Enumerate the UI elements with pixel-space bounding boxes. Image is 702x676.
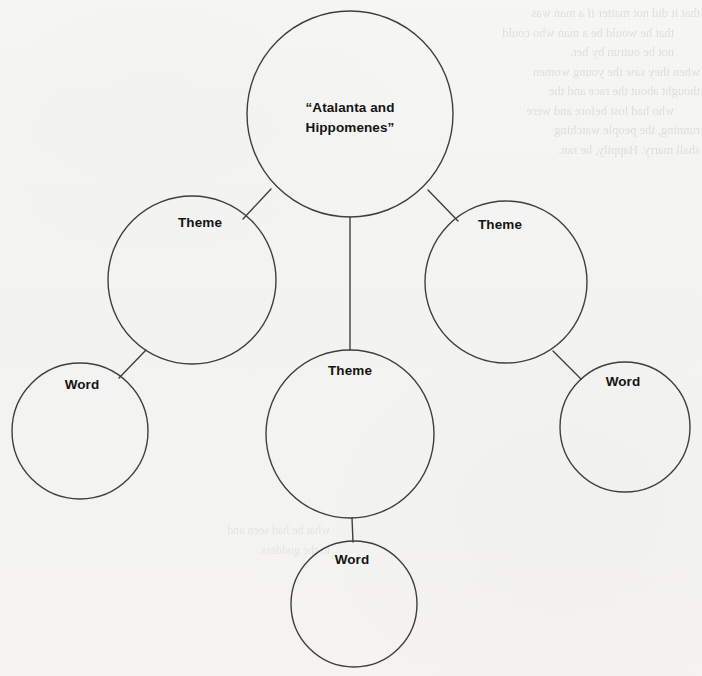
label-main: “Atalanta and Hippomenes” [247, 98, 453, 137]
page: that it did not matter if a man was that… [0, 0, 702, 676]
connector-theme-left-to-word-left [119, 350, 146, 378]
connector-theme-center-to-word-bottom [352, 518, 353, 542]
label-word-right: Word [558, 372, 688, 392]
label-word-bottom: Word [289, 550, 415, 570]
label-word-left: Word [14, 375, 150, 395]
label-theme-right: Theme [419, 215, 581, 235]
label-theme-left: Theme [116, 213, 284, 233]
label-theme-center: Theme [266, 361, 434, 381]
